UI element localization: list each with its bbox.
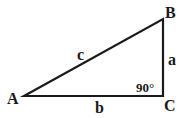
vertex-c-label: C bbox=[164, 97, 176, 114]
side-b-label: b bbox=[95, 99, 104, 116]
vertex-a-label: A bbox=[7, 90, 19, 107]
triangle-diagram: A B C c a b 90° bbox=[0, 0, 187, 118]
vertex-b-label: B bbox=[165, 4, 176, 21]
side-c-label: c bbox=[77, 46, 84, 63]
side-a-label: a bbox=[168, 51, 176, 68]
right-angle-label: 90° bbox=[136, 80, 154, 95]
